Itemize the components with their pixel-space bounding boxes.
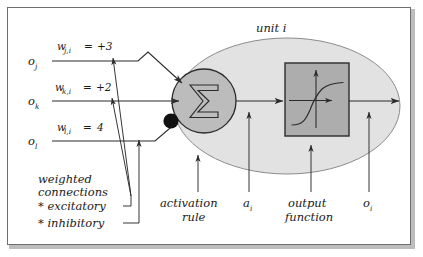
diagram-canvas: unit i o j w j,i = +3 o k w k,i = +2 o l… <box>0 0 423 257</box>
weight-subscript-oj: j,i <box>62 46 71 55</box>
callout-output-function-line2: function <box>284 210 333 224</box>
weight-value-ok: +2 <box>96 81 112 93</box>
weight-equals-ol: = <box>83 121 92 133</box>
callout-activation-value: a <box>243 196 250 210</box>
legend-line-excitatory: * excitatory <box>38 199 106 213</box>
input-label-oj: o <box>28 54 35 68</box>
weight-equals-ok: = <box>83 81 92 93</box>
weight-subscript-ok: k,i <box>62 87 71 96</box>
connection-line-oj <box>52 52 182 83</box>
legend-line-connections: connections <box>38 185 108 199</box>
callout-output-value: o <box>363 196 370 210</box>
callout-output-function-line1: output <box>288 196 327 210</box>
legend-line-weighted: weighted <box>38 172 92 186</box>
callout-activation-value-sub: i <box>250 204 252 213</box>
weight-subscript-ol: l,i <box>64 127 71 136</box>
callout-activation-rule-line2: rule <box>182 210 206 224</box>
input-label-ok: o <box>28 94 35 108</box>
input-sub-ol: l <box>35 142 38 151</box>
legend-line-inhibitory: * inhibitory <box>38 216 105 230</box>
pointer-excitatory-secondary <box>112 98 131 196</box>
input-label-ol: o <box>28 134 35 148</box>
unit-title-label: unit i <box>256 21 287 35</box>
inhibitory-connection-dot <box>163 113 178 128</box>
callout-output-value-sub: i <box>370 204 372 213</box>
weight-equals-oj: = <box>84 40 93 52</box>
input-sub-ok: k <box>35 102 40 111</box>
weight-value-oj: +3 <box>97 40 113 52</box>
summation-circle <box>172 69 236 133</box>
neural-unit-figure: unit i o j w j,i = +3 o k w k,i = +2 o l… <box>0 0 423 257</box>
callout-activation-rule-line1: activation <box>160 196 218 210</box>
weight-value-ol: 4 <box>96 121 104 133</box>
